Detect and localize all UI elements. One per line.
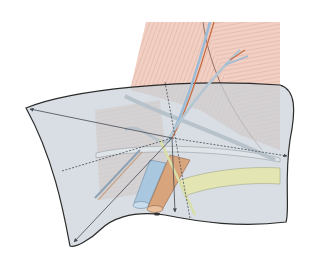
anatomical-diagram [0, 0, 316, 267]
diagram-canvas [0, 0, 316, 267]
